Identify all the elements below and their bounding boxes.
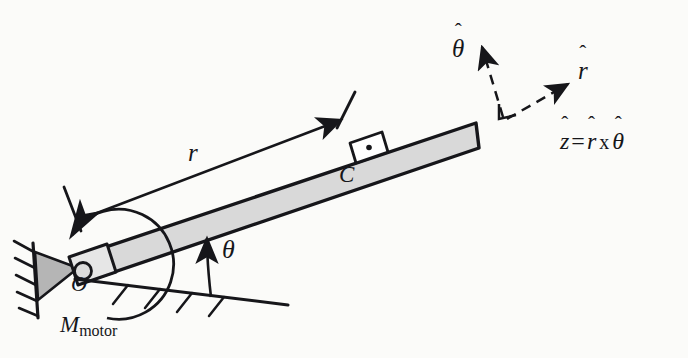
- theta-hat-label: ˆ θ: [452, 36, 464, 61]
- polar-unit-vector-axes: [482, 47, 568, 119]
- theta-hat-caret: ˆ: [455, 21, 462, 42]
- point-C-label: C: [339, 163, 354, 186]
- r-hat-label: ˆ r: [578, 58, 588, 83]
- theta-angle-arc: [207, 238, 211, 297]
- motor-moment-label: Mmotor: [60, 313, 117, 339]
- r-hat-axis-arrow[interactable]: [507, 84, 568, 119]
- motor-moment-subscript: motor: [79, 322, 117, 339]
- rod-body: [73, 123, 479, 284]
- r-hat-caret: ˆ: [579, 43, 586, 64]
- dimension-tick-left: [64, 187, 81, 231]
- ground-line: [75, 279, 288, 305]
- theta-angle-label: θ: [222, 237, 235, 263]
- equation-equals: =: [569, 129, 587, 153]
- rod: [69, 123, 479, 285]
- theta-arc-arrow: [207, 238, 211, 297]
- ground-reference-line: [75, 279, 288, 316]
- motor-moment-symbol: M: [60, 312, 79, 337]
- equation-r-hat-caret: ˆ: [588, 114, 595, 135]
- point-O-label: O: [71, 273, 87, 295]
- dimension-tick-right: [337, 92, 355, 128]
- equation-theta-hat-caret: ˆ: [615, 114, 622, 135]
- z-hat-equation: ˆ z = ˆ r x ˆ θ: [560, 129, 624, 153]
- mechanics-figure: r C O θ Mmotor ˆ θ ˆ r ˆ z = ˆ r x ˆ θ: [0, 0, 688, 358]
- equation-cross-operator: x: [596, 132, 612, 152]
- z-hat-caret: ˆ: [561, 114, 568, 135]
- collar-center-dot: [366, 145, 372, 151]
- radius-label: r: [188, 140, 198, 165]
- radius-dimension-line: [64, 92, 355, 231]
